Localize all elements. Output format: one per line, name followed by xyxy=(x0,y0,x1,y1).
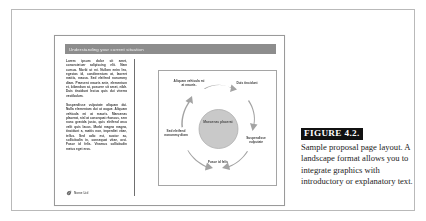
slide-header-bar: Understanding your current situation xyxy=(65,44,276,54)
slide-paragraph: Suspendisse vulputate aliquam dui. Nulla… xyxy=(66,103,127,151)
outer-frame: Understanding your current situation Lor… xyxy=(11,9,415,211)
cycle-node-label-right: Suspendisse vulputate xyxy=(239,137,273,145)
cycle-center-circle xyxy=(199,110,238,149)
slide-header-title: Understanding your current situation xyxy=(65,47,144,52)
cycle-node-label-bottom: Fusce id felis xyxy=(204,161,232,165)
figure-caption-text: Sample proposal page layout. A landscape… xyxy=(301,142,417,188)
figure-number-label: FIGURE 4.2. xyxy=(301,128,363,140)
cycle-node-label-top-left: Aliquam vehicula mi at mauris. xyxy=(173,80,205,88)
slide-text-column: Lorem ipsum dolor sit amet, consectetuer… xyxy=(66,59,127,199)
slide-footer-text: Nome Ltd xyxy=(74,191,88,195)
cycle-arrow-left xyxy=(181,96,193,128)
cycle-node-label-left: Sed eleifend nonummy diam xyxy=(162,130,190,138)
slide-mockup: Understanding your current situation Lor… xyxy=(54,35,285,206)
cycle-center-label: Maecenas placerat xyxy=(200,121,236,125)
cycle-node-label-top-right: Duis tincidunt xyxy=(233,82,261,86)
diagram-panel: Maecenas placerat Aliquam vehicula mi at… xyxy=(158,70,277,186)
figure-page: Understanding your current situation Lor… xyxy=(0,0,426,221)
cycle-arrow-right-upper xyxy=(248,100,258,131)
leaf-logo-icon xyxy=(66,190,72,196)
slide-footer: Nome Ltd xyxy=(66,190,88,196)
figure-caption-block: FIGURE 4.2. Sample proposal page layout.… xyxy=(301,122,417,188)
column-divider xyxy=(134,59,135,196)
slide-paragraph: Lorem ipsum dolor sit amet, consectetuer… xyxy=(66,59,127,98)
